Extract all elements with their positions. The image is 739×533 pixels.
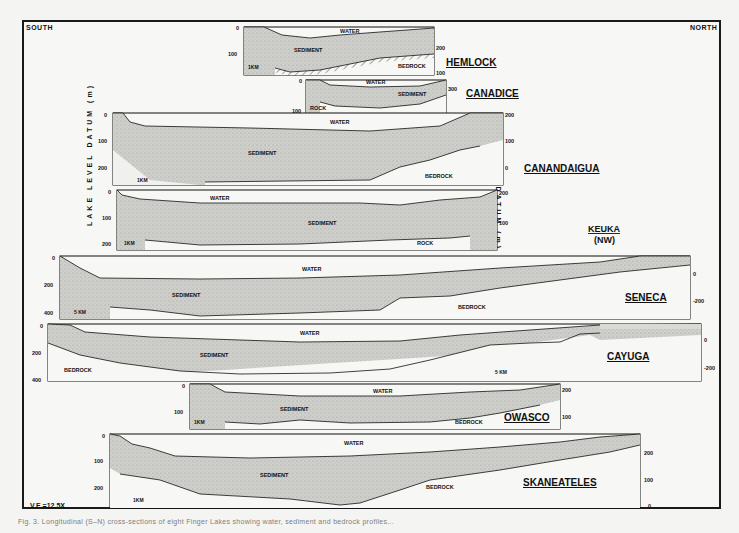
cayuga-sediment-label: SEDIMENT: [200, 352, 229, 358]
canandaigua-lake-name: CANANDAIGUA: [524, 163, 600, 174]
canandaigua-sediment-label: SEDIMENT: [248, 150, 277, 156]
seneca-right-tick-0: 0: [693, 271, 696, 277]
skaneateles-lake-name: SKANEATELES: [523, 477, 597, 488]
canadice-sediment-label: SEDIMENT: [398, 91, 427, 97]
hemlock-right-tick-100: 100: [436, 70, 445, 76]
canandaigua-water-label: WATER: [330, 119, 349, 125]
owasco-lake-name: OWASCO: [504, 412, 550, 423]
keuka-tick-100: 100: [102, 215, 111, 221]
owasco-right-tick-200: 200: [562, 387, 571, 393]
hemlock-lake-name: HEMLOCK: [446, 57, 497, 68]
skaneateles-tick-200: 200: [94, 485, 103, 491]
keuka-tick-0: 0: [108, 189, 111, 195]
seneca-right-tick--200: -200: [693, 298, 704, 304]
canandaigua-bedrock-label: BEDROCK: [425, 173, 453, 179]
skaneateles-bedrock-label: BEDROCK: [426, 484, 454, 490]
canandaigua-right-tick-100: 100: [505, 138, 514, 144]
canadice-right-tick-300: 300: [448, 86, 457, 92]
owasco-bedrock-label: BEDROCK: [455, 419, 483, 425]
keuka-sediment-label: SEDIMENT: [308, 220, 337, 226]
owasco-tick-100: 100: [174, 409, 183, 415]
canadice-rock-label: ROCK: [310, 105, 326, 111]
skaneateles-scale-bar: 1KM: [133, 497, 144, 503]
owasco-right-tick-100: 100: [562, 414, 571, 420]
skaneateles-right-tick-100: 100: [644, 477, 653, 483]
canandaigua-scale-bar: 1KM: [137, 177, 148, 183]
cayuga-tick-200: 200: [32, 350, 41, 356]
cayuga-water-label: WATER: [300, 330, 319, 336]
skaneateles-sediment-label: SEDIMENT: [260, 472, 289, 478]
seneca-sediment-label: SEDIMENT: [172, 292, 201, 298]
seneca-water-label: WATER: [302, 266, 321, 272]
cayuga-bedrock-label: BEDROCK: [64, 367, 92, 373]
canandaigua-right-tick-0: 0: [505, 165, 508, 171]
hemlock-tick-100: 100: [228, 51, 237, 57]
canandaigua-tick-100: 100: [98, 138, 107, 144]
canadice-lake-name: CANADICE: [466, 88, 519, 99]
keuka-right-tick-200: 200: [499, 190, 508, 196]
owasco-sediment-label: SEDIMENT: [280, 406, 309, 412]
canadice-water-label: WATER: [366, 79, 385, 85]
keuka-right-tick-100: 100: [499, 220, 508, 226]
keuka-water-label: WATER: [210, 195, 229, 201]
figure-caption: Fig. 3. Longitudinal (S–N) cross-section…: [18, 518, 394, 525]
panel-keuka: [117, 190, 497, 250]
seneca-tick-200: 200: [44, 282, 53, 288]
cross-sections-diagram: 0 100 200 100 WATER SEDIMENT BEDROCK 1KM…: [0, 0, 739, 533]
owasco-scale-bar: 1KM: [194, 419, 205, 425]
seneca-tick-400: 400: [44, 310, 53, 316]
keuka-tick-200: 200: [102, 241, 111, 247]
panel-skaneateles: [110, 434, 640, 508]
seneca-lake-name: SENECA: [625, 292, 667, 303]
owasco-tick-0: 0: [182, 383, 185, 389]
skaneateles-right-tick-200: 200: [644, 450, 653, 456]
keuka-lake-name: KEUKA: [588, 224, 621, 234]
panel-cayuga: [48, 324, 701, 381]
panel-seneca: [60, 256, 690, 319]
seneca-tick-0: 0: [52, 255, 55, 261]
hemlock-sediment-label: SEDIMENT: [294, 47, 323, 53]
skaneateles-tick-100: 100: [94, 458, 103, 464]
canandaigua-tick-200: 200: [98, 165, 107, 171]
cayuga-lake-name: CAYUGA: [607, 351, 649, 362]
skaneateles-right-tick-0: 0: [648, 503, 651, 509]
keuka-rock-label: ROCK: [417, 240, 433, 246]
cayuga-right-tick--200: -200: [704, 365, 715, 371]
seneca-bedrock-label: BEDROCK: [458, 304, 486, 310]
cayuga-tick-400: 400: [32, 377, 41, 383]
canandaigua-right-tick-200: 200: [505, 112, 514, 118]
cayuga-tick-0: 0: [40, 323, 43, 329]
hemlock-tick-0: 0: [236, 25, 239, 31]
canandaigua-tick-0: 0: [104, 112, 107, 118]
keuka-subname: (NW): [594, 235, 615, 245]
cayuga-right-tick-0: 0: [704, 337, 707, 343]
seneca-scale-bar: 5 KM: [74, 309, 86, 315]
hemlock-water-label: WATER: [340, 28, 359, 34]
keuka-scale-bar: 1KM: [124, 240, 135, 246]
skaneateles-tick-0: 0: [102, 433, 105, 439]
cayuga-scale-bar: 5 KM: [495, 369, 507, 375]
skaneateles-water-label: WATER: [344, 440, 363, 446]
hemlock-right-tick-200: 200: [436, 45, 445, 51]
owasco-water-label: WATER: [373, 388, 392, 394]
canadice-tick-0: 0: [299, 78, 302, 84]
hemlock-scale-bar: 1KM: [248, 64, 259, 70]
hemlock-bedrock-label: BEDROCK: [398, 63, 426, 69]
